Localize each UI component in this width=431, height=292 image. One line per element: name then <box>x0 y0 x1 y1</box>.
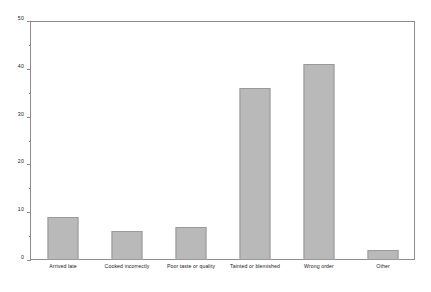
x-axis-tick-label: Tainted or blemished <box>219 263 291 269</box>
y-axis-tick-mark <box>27 260 31 261</box>
x-axis: Arrived lateCooked incorrectlyPoor taste… <box>31 263 415 275</box>
x-axis-tick-label: Other <box>347 263 419 269</box>
y-axis-tick-label: 40 <box>18 64 24 69</box>
bar[interactable] <box>304 64 335 260</box>
bar-slot <box>31 21 95 260</box>
bar[interactable] <box>48 217 79 260</box>
y-axis-tick-label: 30 <box>18 112 24 117</box>
bar-slot <box>159 21 223 260</box>
bar[interactable] <box>112 231 143 260</box>
bar[interactable] <box>240 88 271 260</box>
bar-slot <box>351 21 415 260</box>
y-axis-tick-label: 0 <box>21 255 24 260</box>
y-axis: 01020304050 <box>0 21 31 260</box>
bar-chart: 01020304050 Arrived lateCooked incorrect… <box>0 0 431 292</box>
x-axis-tick-label: Arrived late <box>27 263 99 269</box>
bar[interactable] <box>176 227 207 260</box>
bar[interactable] <box>368 250 399 260</box>
bar-slot <box>287 21 351 260</box>
bar-slot <box>95 21 159 260</box>
bar-slot <box>223 21 287 260</box>
x-axis-tick-label: Cooked incorrectly <box>91 263 163 269</box>
y-axis-tick-label: 20 <box>18 159 24 164</box>
y-axis-tick-label: 50 <box>18 16 24 21</box>
x-axis-tick-label: Wrong order <box>283 263 355 269</box>
x-axis-tick-label: Poor taste or quality <box>155 263 227 269</box>
y-axis-tick-label: 10 <box>18 207 24 212</box>
bars-layer <box>31 21 415 260</box>
